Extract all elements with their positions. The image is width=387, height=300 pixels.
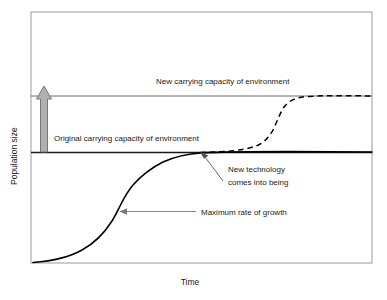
new-carrying-capacity-label: New carrying capacity of environment	[156, 77, 290, 86]
maximum-rate-label: Maximum rate of growth	[201, 208, 287, 217]
x-axis-label: Time	[181, 277, 200, 287]
original-carrying-capacity-label: Original carrying capacity of environmen…	[54, 134, 200, 143]
new-technology-label-line1: New technology	[228, 165, 285, 174]
chart-figure: New carrying capacity of environment Ori…	[0, 0, 387, 300]
population-growth-chart: New carrying capacity of environment Ori…	[0, 0, 387, 300]
new-technology-label-line2: comes into being	[228, 178, 288, 187]
y-axis-label: Population size	[9, 127, 19, 185]
